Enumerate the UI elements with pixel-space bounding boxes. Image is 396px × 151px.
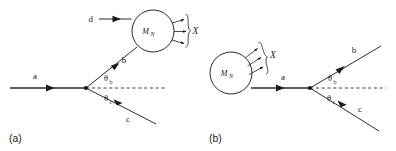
- panel-b-label-theta-c: θ c: [327, 93, 336, 105]
- panel-a-arrow-d: [113, 16, 121, 22]
- panel-a-line-a: [10, 85, 86, 92]
- panel-b-theta-c-symbol: θ: [327, 93, 331, 103]
- panel-a-theta-c-symbol: θ: [104, 93, 108, 103]
- panel-a-x-arrows: [172, 20, 186, 44]
- panel-b-label-c: c: [358, 104, 362, 114]
- panel-b-label-x: X: [269, 50, 277, 60]
- panel-b-label-a: a: [281, 72, 285, 82]
- panel-b-line-c: [310, 88, 379, 131]
- panel-a-label-theta-c: θ c: [104, 93, 113, 105]
- diagram-svg: M N X a b c d θ b: [0, 0, 396, 151]
- panel-a-label-c: c: [126, 114, 130, 124]
- panel-a-caption: (a): [9, 132, 22, 144]
- panel-a-label-theta-b: θ b: [104, 73, 113, 85]
- panel-b-group: M N X: [209, 42, 386, 144]
- panel-b-theta-b-symbol: θ: [328, 73, 332, 83]
- panel-b-arrow-a: [276, 85, 285, 92]
- panel-b-caption: (b): [209, 132, 222, 144]
- panel-a-label-b: b: [122, 55, 127, 65]
- panel-a-theta-b-symbol: θ: [104, 73, 108, 83]
- panel-b-theta-b-subscript: b: [334, 79, 337, 85]
- panel-a-blob-label: M: [141, 27, 150, 36]
- panel-a-label-d: d: [89, 14, 94, 24]
- panel-a-group: M N X a b c d θ b: [9, 10, 200, 144]
- panel-b-blob-label: M: [220, 69, 229, 78]
- panel-a-line-c: [86, 88, 156, 124]
- panel-a-label-a: a: [33, 71, 37, 81]
- panel-a-arrow-a: [46, 85, 55, 92]
- panel-a-theta-b-subscript: b: [110, 79, 113, 85]
- panel-a-x-brace: [186, 15, 191, 48]
- figure-canvas: M N X a b c d θ b: [0, 0, 396, 151]
- panel-b-theta-c-subscript: c: [333, 99, 336, 105]
- panel-b-label-b: b: [352, 45, 357, 55]
- panel-b-arrow-b: [336, 66, 345, 74]
- panel-a-theta-c-subscript: c: [110, 99, 113, 105]
- panel-a-line-d: [99, 16, 132, 22]
- panel-b-line-b: [310, 46, 381, 88]
- panel-b-line-a: [251, 85, 310, 92]
- panel-a-label-x: X: [192, 26, 200, 36]
